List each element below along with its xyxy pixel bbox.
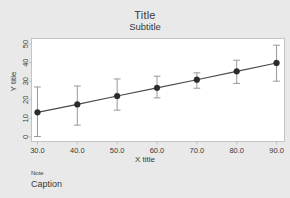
chart-caption: Caption bbox=[31, 179, 62, 189]
x-tick-label: 60.0 bbox=[150, 146, 165, 155]
plot-area: 0102030405030.040.050.060.070.080.090.0 bbox=[0, 0, 290, 198]
chart-note: Note bbox=[31, 170, 44, 176]
y-axis-title: Y title bbox=[9, 52, 18, 112]
data-point-marker bbox=[194, 77, 200, 83]
x-tick-label: 90.0 bbox=[269, 146, 284, 155]
y-tick-label: 30 bbox=[21, 77, 30, 85]
x-axis-title: X title bbox=[0, 155, 290, 164]
y-tick-label: 20 bbox=[21, 96, 30, 104]
y-tick-label: 0 bbox=[21, 135, 30, 139]
x-tick-label: 70.0 bbox=[190, 146, 205, 155]
x-tick-label: 30.0 bbox=[30, 146, 45, 155]
data-point-marker bbox=[154, 85, 160, 91]
data-point-marker bbox=[114, 93, 120, 99]
y-tick-label: 40 bbox=[21, 58, 30, 66]
x-tick-label: 50.0 bbox=[110, 146, 125, 155]
data-point-marker bbox=[234, 68, 240, 74]
data-point-marker bbox=[74, 101, 80, 107]
data-point-marker bbox=[35, 109, 41, 115]
chart-figure: Title Subtitle 0102030405030.040.050.060… bbox=[0, 0, 290, 198]
x-tick-label: 40.0 bbox=[70, 146, 85, 155]
data-point-marker bbox=[274, 60, 280, 66]
y-tick-label: 50 bbox=[21, 40, 30, 48]
x-tick-label: 80.0 bbox=[229, 146, 244, 155]
y-tick-label: 10 bbox=[21, 114, 30, 122]
